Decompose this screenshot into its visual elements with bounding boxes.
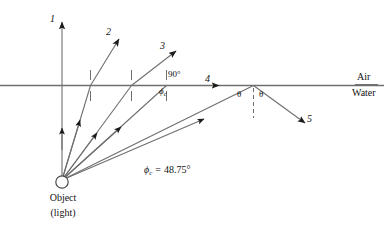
ray-label-3: 3 (160, 41, 165, 51)
critical-angle-equation: ϕc=48.75° (144, 165, 190, 177)
ray-4-path (62, 86, 219, 181)
medium-label-air: Air (357, 72, 370, 82)
angle-label-phi-critical: ϕc (159, 87, 167, 98)
medium-label-water: Water (352, 88, 376, 98)
object-label-line1: Object (38, 193, 88, 203)
ray-label-2: 2 (106, 27, 111, 37)
phi-subscript: c (164, 90, 167, 98)
diagram-canvas: 1 2 3 4 5 90° ϕc θ θ Air Water Object (l… (0, 0, 384, 228)
angle-label-theta-incident: θ (237, 90, 241, 99)
object-label-line2: (light) (38, 208, 88, 218)
ray-label-1: 1 (50, 14, 55, 24)
angle-label-theta-reflected: θ (259, 90, 263, 99)
equation-value: 48.75° (161, 164, 191, 175)
light-source-circle (56, 176, 68, 188)
ray-label-5: 5 (307, 114, 312, 124)
equation-operator: = (152, 164, 161, 175)
angle-label-90deg: 90° (168, 70, 181, 79)
ray-label-4: 4 (205, 74, 210, 84)
ray-3-path (62, 51, 176, 180)
